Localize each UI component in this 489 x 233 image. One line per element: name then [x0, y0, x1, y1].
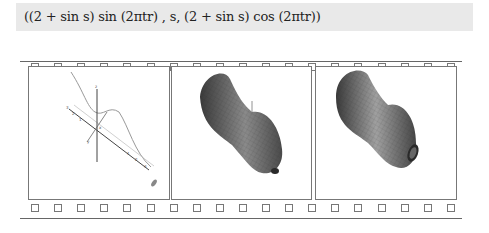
sprocket-hole — [100, 204, 108, 212]
partial-surface-plot — [172, 67, 312, 200]
sprocket-hole — [239, 204, 247, 212]
space-curve-plot: 321 123 zxy — [29, 67, 170, 200]
filmstrip-top-rule — [20, 61, 462, 62]
sprocket-hole — [216, 204, 224, 212]
frame-1-curve: 321 123 zxy — [28, 66, 170, 200]
sprocket-hole — [308, 204, 316, 212]
sprocket-hole — [54, 204, 62, 212]
frame-3-full-surface — [315, 66, 457, 200]
sprocket-hole — [354, 204, 362, 212]
svg-text:z: z — [95, 84, 97, 89]
filmstrip-bottom-rule — [20, 218, 462, 219]
sprocket-hole — [31, 204, 39, 212]
formula-box: ((2 + sin s) sin (2πtr) , s, (2 + sin s)… — [16, 3, 473, 31]
sprocket-hole — [447, 204, 455, 212]
sprocket-hole — [147, 204, 155, 212]
svg-text:3: 3 — [66, 105, 69, 110]
svg-text:1: 1 — [79, 117, 82, 122]
sprocket-hole — [77, 204, 85, 212]
sprocket-hole — [262, 204, 270, 212]
sprocket-hole — [170, 204, 178, 212]
full-surface-plot — [316, 67, 457, 200]
sprocket-hole — [424, 204, 432, 212]
svg-text:y: y — [87, 139, 90, 144]
sprocket-holes-bottom — [31, 204, 461, 214]
sprocket-hole — [123, 204, 131, 212]
sprocket-hole — [378, 204, 386, 212]
frame-2-partial-surface — [171, 66, 312, 200]
parametric-formula: ((2 + sin s) sin (2πtr) , s, (2 + sin s)… — [24, 9, 321, 24]
sprocket-hole — [285, 204, 293, 212]
sprocket-hole — [193, 204, 201, 212]
sprocket-hole — [331, 204, 339, 212]
sprocket-hole — [401, 204, 409, 212]
